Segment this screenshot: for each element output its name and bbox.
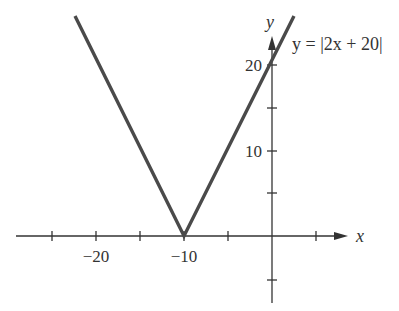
curve-abs-2x-plus-20 [75,16,294,236]
absolute-value-graph: −20 −10 10 20 x y y = |2x + 20| [0,0,399,311]
y-tick-label-10: 10 [245,142,262,161]
x-tick-label-minus-10: −10 [171,247,198,266]
y-tick-label-20: 20 [245,56,262,75]
x-tick-label-minus-20: −20 [83,247,110,266]
y-axis-arrow-icon [268,36,276,50]
x-axis-label: x [355,226,364,246]
x-axis-arrow-icon [334,232,348,240]
y-axis-label: y [264,12,274,32]
equation-label: y = |2x + 20| [292,34,383,54]
